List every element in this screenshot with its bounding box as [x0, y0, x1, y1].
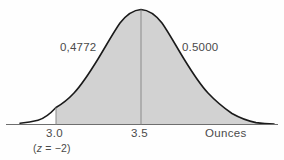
z-score-note: (z = −2)	[33, 143, 71, 154]
area-label-right: 0.5000	[182, 42, 218, 54]
normal-distribution-figure: 0,4772 0.5000 3.0 3.5 Ounces (z = −2)	[0, 0, 284, 160]
x-axis-unit-label: Ounces	[205, 128, 246, 140]
area-label-left: 0,4772	[60, 42, 96, 54]
x-tick-label-3-0: 3.0	[46, 128, 63, 140]
x-tick-label-3-5: 3.5	[131, 128, 148, 140]
z-note-equals: =	[42, 142, 55, 154]
z-note-value: −2	[55, 142, 67, 154]
z-note-close-paren: )	[67, 142, 71, 154]
